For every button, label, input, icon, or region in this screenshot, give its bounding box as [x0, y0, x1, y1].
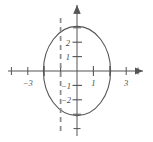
x-axis-arrow-icon: [135, 68, 143, 75]
y-tick-label-1: 1: [66, 52, 70, 62]
x-tick-label-1: 1: [91, 78, 95, 88]
coordinate-plane-svg: −3 1 3 2 1 −1 −2: [0, 0, 153, 142]
y-tick-label--2: −2: [61, 95, 72, 105]
y-axis-arrow-icon: [74, 5, 81, 13]
x-tick-label--3: −3: [23, 78, 33, 88]
x-axis-group: −3 1 3: [8, 66, 143, 88]
x-tick-label-3: 3: [123, 78, 128, 88]
graph-figure: −3 1 3 2 1 −1 −2: [0, 0, 153, 142]
y-tick-label--1: −1: [61, 81, 71, 91]
y-tick-label-2: 2: [66, 38, 71, 48]
